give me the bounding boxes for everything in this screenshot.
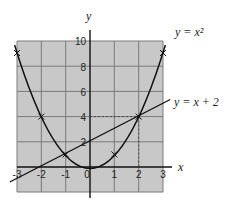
line-label: y = x + 2	[173, 95, 219, 109]
svg-text:4: 4	[80, 112, 86, 123]
svg-text:-3: -3	[13, 169, 22, 180]
parabola-label: y = x²	[174, 25, 204, 39]
svg-text:-2: -2	[37, 169, 46, 180]
svg-text:3: 3	[160, 169, 166, 180]
graph: y x y = x² y = x + 2 10 8 6 4 2 -3 -2 -1…	[0, 0, 240, 205]
svg-text:8: 8	[80, 62, 86, 73]
svg-text:-1: -1	[61, 169, 70, 180]
svg-text:1: 1	[112, 169, 118, 180]
svg-text:0: 0	[84, 169, 90, 180]
svg-text:10: 10	[75, 36, 87, 47]
x-axis-label: x	[177, 160, 184, 174]
svg-text:6: 6	[80, 87, 86, 98]
svg-text:2: 2	[136, 169, 142, 180]
svg-text:2: 2	[80, 137, 86, 148]
y-axis-label: y	[85, 9, 92, 23]
